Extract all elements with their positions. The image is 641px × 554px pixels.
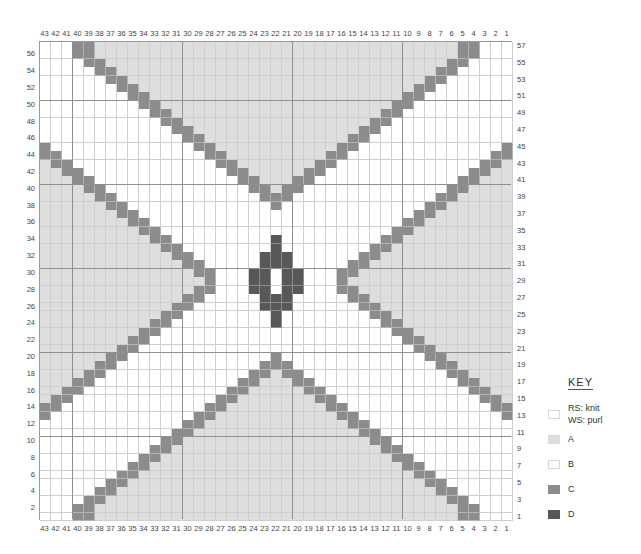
column-number: 9 xyxy=(413,29,424,38)
row-number: 42 xyxy=(19,167,35,176)
column-number: 33 xyxy=(149,524,160,533)
row-number: 57 xyxy=(517,41,533,50)
chart-cell xyxy=(403,513,414,522)
column-number: 17 xyxy=(325,524,336,533)
column-number: 23 xyxy=(259,524,270,533)
column-number: 43 xyxy=(39,29,50,38)
column-number: 21 xyxy=(281,29,292,38)
d-swatch xyxy=(548,510,560,519)
chart-cell xyxy=(139,513,150,522)
column-number: 32 xyxy=(160,29,171,38)
column-number: 36 xyxy=(116,29,127,38)
row-number: 19 xyxy=(517,360,533,369)
column-number: 39 xyxy=(83,29,94,38)
column-number: 6 xyxy=(446,29,457,38)
column-number: 15 xyxy=(347,524,358,533)
row-number: 2 xyxy=(19,503,35,512)
column-number: 37 xyxy=(105,524,116,533)
column-number: 12 xyxy=(380,29,391,38)
column-number: 12 xyxy=(380,524,391,533)
key-item-knit: RS: knit WS: purl xyxy=(548,402,603,426)
column-number: 1 xyxy=(501,524,512,533)
column-number: 6 xyxy=(446,524,457,533)
row-number: 14 xyxy=(19,402,35,411)
chart-cell xyxy=(150,513,161,522)
column-number: 29 xyxy=(193,29,204,38)
chart-cell xyxy=(106,513,117,522)
row-number: 15 xyxy=(517,394,533,403)
major-gridline xyxy=(402,42,403,519)
row-number: 33 xyxy=(517,243,533,252)
column-number: 42 xyxy=(50,524,61,533)
column-number: 20 xyxy=(292,524,303,533)
column-number: 40 xyxy=(72,524,83,533)
column-number: 22 xyxy=(270,524,281,533)
column-number: 2 xyxy=(490,29,501,38)
column-number: 18 xyxy=(314,29,325,38)
column-number: 28 xyxy=(204,29,215,38)
column-number: 22 xyxy=(270,29,281,38)
chart-cell xyxy=(216,513,227,522)
column-number: 37 xyxy=(105,29,116,38)
column-number: 34 xyxy=(138,29,149,38)
row-number: 7 xyxy=(517,461,533,470)
row-number: 53 xyxy=(517,75,533,84)
major-gridline xyxy=(40,100,511,101)
column-number: 16 xyxy=(336,524,347,533)
row-number: 51 xyxy=(517,91,533,100)
row-number: 36 xyxy=(19,217,35,226)
key-label-rs: RS: knit xyxy=(568,402,603,414)
column-number: 30 xyxy=(182,524,193,533)
column-number: 43 xyxy=(39,524,50,533)
chart-cell xyxy=(469,513,480,522)
chart-key: KEY RS: knit WS: purl A B C D xyxy=(548,372,638,390)
chart-cell xyxy=(348,513,359,522)
column-number: 24 xyxy=(248,524,259,533)
row-number: 40 xyxy=(19,184,35,193)
key-label-a: A xyxy=(568,433,574,445)
row-number: 49 xyxy=(517,108,533,117)
row-number: 22 xyxy=(19,335,35,344)
chart-cell xyxy=(238,513,249,522)
row-number: 4 xyxy=(19,486,35,495)
major-gridline xyxy=(40,352,511,353)
column-number: 39 xyxy=(83,524,94,533)
chart-cell xyxy=(480,513,491,522)
row-number: 30 xyxy=(19,268,35,277)
column-number: 7 xyxy=(435,524,446,533)
column-number: 36 xyxy=(116,524,127,533)
row-number: 23 xyxy=(517,327,533,336)
column-number: 2 xyxy=(490,524,501,533)
chart-cell xyxy=(315,513,326,522)
column-number: 38 xyxy=(94,524,105,533)
column-number: 13 xyxy=(369,29,380,38)
row-number: 38 xyxy=(19,201,35,210)
column-number: 26 xyxy=(226,524,237,533)
key-label-ws: WS: purl xyxy=(568,414,603,426)
row-number: 10 xyxy=(19,436,35,445)
column-number: 35 xyxy=(127,29,138,38)
column-number: 21 xyxy=(281,524,292,533)
column-number: 23 xyxy=(259,29,270,38)
row-number: 48 xyxy=(19,117,35,126)
chart-cell xyxy=(271,513,282,522)
column-number: 14 xyxy=(358,524,369,533)
column-number: 27 xyxy=(215,524,226,533)
row-number: 56 xyxy=(19,49,35,58)
chart-cell xyxy=(194,513,205,522)
b-swatch xyxy=(548,460,560,469)
column-number: 34 xyxy=(138,524,149,533)
column-number: 40 xyxy=(72,29,83,38)
column-number: 9 xyxy=(413,524,424,533)
key-item-a: A xyxy=(548,433,574,445)
column-number: 25 xyxy=(237,524,248,533)
row-number: 13 xyxy=(517,411,533,420)
major-gridline xyxy=(292,42,293,519)
chart-cell xyxy=(381,513,392,522)
column-number: 13 xyxy=(369,524,380,533)
row-number: 34 xyxy=(19,234,35,243)
row-number: 39 xyxy=(517,192,533,201)
column-number: 10 xyxy=(402,524,413,533)
column-number: 42 xyxy=(50,29,61,38)
column-number: 11 xyxy=(391,524,402,533)
